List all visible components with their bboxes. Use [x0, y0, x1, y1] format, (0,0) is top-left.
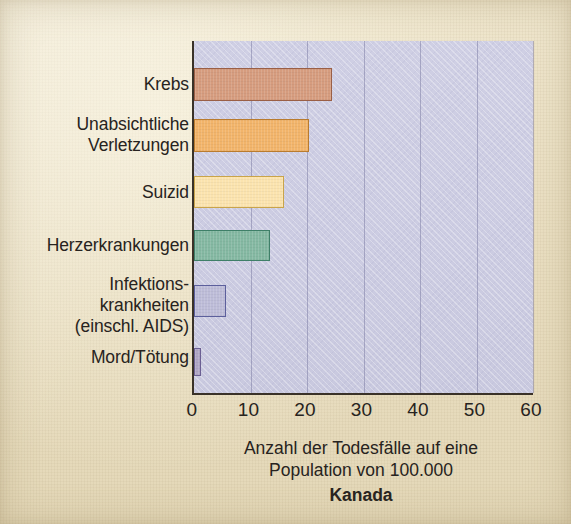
x-tick-label-0: 0	[162, 399, 222, 421]
gridline	[477, 41, 478, 393]
category-label-mord-toetung: Mord/Tötung	[91, 347, 189, 368]
x-tick-label-50: 50	[445, 399, 505, 421]
bar-6	[194, 348, 201, 376]
x-tick-label-40: 40	[388, 399, 448, 421]
x-axis-title-text: Anzahl der Todesfälle auf eine Populatio…	[244, 438, 478, 480]
bar-2	[194, 119, 309, 152]
bar-5	[194, 285, 226, 317]
bar-texture	[195, 231, 269, 260]
x-tick-label-60: 60	[501, 399, 561, 421]
x-tick-label-30: 30	[332, 399, 392, 421]
x-tick-label-10: 10	[219, 399, 279, 421]
bar-texture	[195, 177, 283, 207]
category-label-unabsichtliche-verletzungen: Unabsichtliche Verletzungen	[77, 114, 189, 156]
category-label-text: Suizid	[142, 182, 189, 202]
category-label-text: Mord/Tötung	[91, 347, 189, 367]
plot-area	[192, 41, 533, 395]
chart-title-text: Kanada	[329, 485, 392, 505]
category-label-text: Unabsichtliche Verletzungen	[77, 114, 189, 155]
category-label-infektionskrankheiten: Infektions- krankheiten (einschl. AIDS)	[75, 274, 189, 337]
category-label-text: Herzerkrankungen	[47, 235, 189, 255]
bar-3	[194, 176, 284, 208]
category-label-herzerkrankungen: Herzerkrankungen	[47, 235, 189, 256]
x-axis-title: Anzahl der Todesfälle auf eine Populatio…	[186, 437, 536, 481]
category-label-text: Krebs	[144, 74, 189, 94]
category-label-text: Infektions- krankheiten (einschl. AIDS)	[75, 274, 189, 336]
gridline	[420, 41, 421, 393]
category-label-krebs: Krebs	[144, 74, 189, 95]
bar-1	[194, 68, 332, 101]
bar-texture	[195, 120, 308, 151]
chart-title: Kanada	[186, 485, 536, 506]
bar-texture	[195, 349, 200, 375]
chart-figure: Krebs Unabsichtliche Verletzungen Suizid…	[0, 0, 571, 524]
gridline	[533, 41, 534, 393]
bar-4	[194, 230, 270, 261]
bar-texture	[195, 69, 331, 100]
category-label-suizid: Suizid	[142, 182, 189, 203]
bar-texture	[195, 286, 225, 316]
caption-block: Anzahl der Todesfälle auf eine Populatio…	[186, 437, 536, 506]
x-tick-label-20: 20	[275, 399, 335, 421]
gridline	[364, 41, 365, 393]
